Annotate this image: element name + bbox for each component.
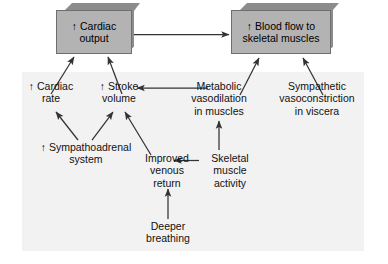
node-deeper-breathing[interactable]: Deeper breathing (132, 220, 204, 245)
box-blood-flow-face: ↑ Blood flow to skeletal muscles (231, 10, 331, 54)
node-sympathetic-vasoconstriction[interactable]: Sympathetic vasoconstriction in viscera (268, 80, 366, 117)
node-sympathoadrenal-system[interactable]: ↑ Sympathoadrenal system (22, 141, 150, 166)
box-blood-flow[interactable]: ↑ Blood flow to skeletal muscles (231, 10, 331, 54)
edge-sympathoadrenal-to-cardiac-rate (56, 112, 78, 140)
box-cardiac-output-label: ↑ Cardiac output (72, 20, 116, 45)
node-skeletal-muscle-activity[interactable]: Skeletal muscle activity (200, 152, 260, 189)
flow-diagram-figure: ↑ Cardiac output ↑ Blood flow to skeleta… (0, 0, 388, 264)
node-cardiac-rate[interactable]: ↑ Cardiac rate (20, 80, 82, 105)
box-blood-flow-label: ↑ Blood flow to skeletal muscles (242, 20, 319, 45)
box-cardiac-output[interactable]: ↑ Cardiac output (56, 10, 132, 54)
box-cardiac-output-face: ↑ Cardiac output (56, 10, 132, 54)
node-stroke-volume[interactable]: ↑ Stroke volume (88, 80, 150, 105)
node-improved-venous-return[interactable]: Improved venous return (137, 152, 197, 189)
edge-sympathoadrenal-to-stroke-volume (92, 112, 113, 140)
node-metabolic-vasodilation[interactable]: Metabolic vasodilation in muscles (180, 80, 258, 117)
